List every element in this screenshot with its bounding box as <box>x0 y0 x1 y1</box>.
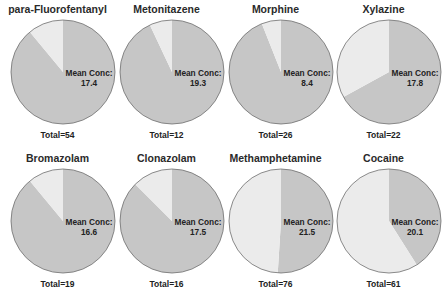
mean-conc-label: Mean Conc:17.4 <box>65 68 113 88</box>
mean-conc-prefix: Mean Conc: <box>174 217 222 227</box>
mean-conc-value: 17.8 <box>391 78 439 88</box>
pie-panel: MorphineMean Conc:8.4Total=26 <box>221 0 330 150</box>
mean-conc-prefix: Mean Conc: <box>65 68 113 78</box>
mean-conc-label: Mean Conc:20.1 <box>391 217 439 237</box>
mean-conc-value: 17.4 <box>65 78 113 88</box>
mean-conc-value: 21.5 <box>283 227 331 237</box>
chart-title: Bromazolam <box>3 152 112 164</box>
mean-conc-label: Mean Conc:8.4 <box>283 68 331 88</box>
mean-conc-value: 20.1 <box>391 227 439 237</box>
mean-conc-prefix: Mean Conc: <box>391 217 439 227</box>
total-label: Total=12 <box>112 130 221 140</box>
pie-panel: MethamphetamineMean Conc:21.5Total=76 <box>221 149 330 299</box>
total-label: Total=54 <box>3 130 112 140</box>
mean-conc-prefix: Mean Conc: <box>65 217 113 227</box>
mean-conc-value: 17.5 <box>174 227 222 237</box>
pie-panel: BromazolamMean Conc:16.6Total=19 <box>3 149 112 299</box>
mean-conc-label: Mean Conc:16.6 <box>65 217 113 237</box>
mean-conc-label: Mean Conc:21.5 <box>283 217 331 237</box>
mean-conc-prefix: Mean Conc: <box>391 68 439 78</box>
pie-panel: XylazineMean Conc:17.8Total=22 <box>329 0 438 150</box>
chart-title: para-Fluorofentanyl <box>3 3 112 15</box>
mean-conc-value: 16.6 <box>65 227 113 237</box>
mean-conc-prefix: Mean Conc: <box>174 68 222 78</box>
total-label: Total=16 <box>112 279 221 289</box>
mean-conc-value: 19.3 <box>174 78 222 88</box>
chart-title: Metonitazene <box>112 3 221 15</box>
mean-conc-label: Mean Conc:19.3 <box>174 68 222 88</box>
pie-slice-light <box>229 169 281 273</box>
mean-conc-label: Mean Conc:17.8 <box>391 68 439 88</box>
total-label: Total=76 <box>221 279 330 289</box>
chart-title: Methamphetamine <box>221 152 330 164</box>
chart-title: Morphine <box>221 3 330 15</box>
chart-title: Clonazolam <box>112 152 221 164</box>
mean-conc-prefix: Mean Conc: <box>283 68 331 78</box>
total-label: Total=26 <box>221 130 330 140</box>
chart-title: Xylazine <box>329 3 438 15</box>
mean-conc-label: Mean Conc:17.5 <box>174 217 222 237</box>
total-label: Total=61 <box>329 279 438 289</box>
chart-title: Cocaine <box>329 152 438 164</box>
pie-panel: CocaineMean Conc:20.1Total=61 <box>329 149 438 299</box>
pie-panel: ClonazolamMean Conc:17.5Total=16 <box>112 149 221 299</box>
pie-panel: MetonitazeneMean Conc:19.3Total=12 <box>112 0 221 150</box>
mean-conc-prefix: Mean Conc: <box>283 217 331 227</box>
total-label: Total=22 <box>329 130 438 140</box>
mean-conc-value: 8.4 <box>283 78 331 88</box>
pie-panel: para-FluorofentanylMean Conc:17.4Total=5… <box>3 0 112 150</box>
total-label: Total=19 <box>3 279 112 289</box>
